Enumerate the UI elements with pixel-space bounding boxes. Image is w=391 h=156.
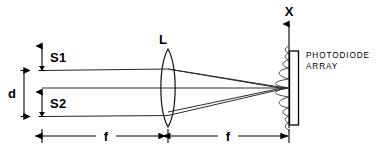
ray-bundle-s1	[42, 69, 289, 89]
label-detector-line1: PHOTODIODE	[306, 51, 370, 60]
label-source-s1: S1	[50, 50, 67, 65]
source-marker-s1	[39, 46, 46, 71]
label-source-s2: S2	[50, 96, 67, 111]
label-separation-d: d	[8, 86, 16, 101]
photodiode-array-detector	[290, 51, 299, 125]
label-lens-l: L	[159, 32, 167, 47]
label-detector-line2: ARRAY	[306, 62, 338, 71]
ray-bundle-s2	[42, 87, 289, 116]
figure-canvas: S1 S2 d L X PH	[0, 0, 391, 156]
source-marker-s2	[39, 92, 46, 117]
optical-setup-diagram: S1 S2 d L X PH	[0, 0, 391, 156]
label-focal-front: f	[104, 129, 109, 144]
dimension-separation-d	[21, 71, 28, 117]
label-axis-x: X	[285, 4, 294, 19]
label-focal-back: f	[226, 129, 231, 144]
